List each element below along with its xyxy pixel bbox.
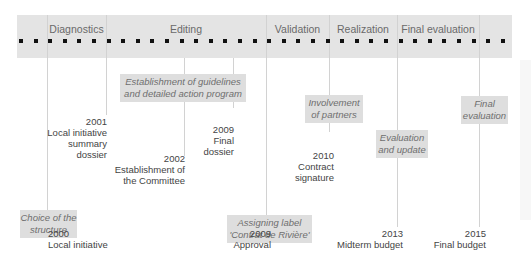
milestone-year: 2015 bbox=[434, 228, 486, 239]
phase-label: Diagnostics bbox=[47, 15, 106, 43]
milestone-year: 2009 bbox=[203, 124, 234, 135]
milestone-year: 2001 bbox=[47, 116, 107, 127]
milestone-label: Finaldossier bbox=[203, 135, 234, 157]
milestone-label: Local initiative bbox=[48, 239, 108, 250]
phase-label: Validation bbox=[266, 15, 329, 43]
side-panel bbox=[520, 60, 531, 220]
milestone: 2009Approval bbox=[234, 228, 272, 250]
timeline-dot bbox=[19, 39, 23, 43]
activity-box: Finalevaluation bbox=[461, 96, 508, 124]
milestone-label: Local initiativesummarydossier bbox=[47, 127, 107, 160]
phase-label: Realization bbox=[329, 15, 397, 43]
milestone: 2002Establishment ofthe Committee bbox=[115, 153, 185, 186]
milestone: 2009Finaldossier bbox=[203, 124, 234, 157]
milestone-year: 2010 bbox=[295, 150, 334, 161]
timeline-divider bbox=[397, 15, 398, 227]
milestone: 2001Local initiativesummarydossier bbox=[47, 116, 107, 160]
milestone-label: Midterm budget bbox=[337, 239, 403, 250]
milestone-label: Final budget bbox=[434, 239, 486, 250]
activity-box: Establishment of guidelinesand detailed … bbox=[120, 74, 246, 102]
activity-box: Evaluationand update bbox=[376, 130, 428, 158]
milestone: 2000Local initiative bbox=[48, 228, 108, 250]
milestone-label: Establishment ofthe Committee bbox=[115, 164, 185, 186]
timeline-dot bbox=[501, 39, 505, 43]
phase-label: Editing bbox=[106, 15, 266, 43]
milestone-label: Approval bbox=[234, 239, 272, 250]
milestone-year: 2013 bbox=[337, 228, 403, 239]
phase-label: Final evaluation bbox=[397, 15, 479, 43]
milestone: 2013Midterm budget bbox=[337, 228, 403, 250]
milestone: 2010Contractsignature bbox=[295, 150, 334, 183]
timeline-dot bbox=[486, 39, 490, 43]
milestone-year: 2009 bbox=[234, 228, 272, 239]
timeline-dot bbox=[34, 39, 38, 43]
milestone-year: 2000 bbox=[48, 228, 108, 239]
milestone-label: Contractsignature bbox=[295, 161, 334, 183]
timeline-divider bbox=[184, 58, 185, 156]
timeline-divider bbox=[266, 15, 267, 227]
milestone: 2015Final budget bbox=[434, 228, 486, 250]
milestone-year: 2002 bbox=[115, 153, 185, 164]
activity-box: Involvementof partners bbox=[305, 95, 363, 123]
